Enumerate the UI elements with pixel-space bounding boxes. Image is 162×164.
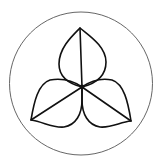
- center-dot: [80, 85, 85, 90]
- outer-circle: [10, 12, 153, 155]
- trillium-icon: [0, 0, 162, 164]
- trillium-logo: Three-petal trillium flower inside a cir…: [0, 0, 162, 164]
- top-petal-vein: [80, 28, 82, 87]
